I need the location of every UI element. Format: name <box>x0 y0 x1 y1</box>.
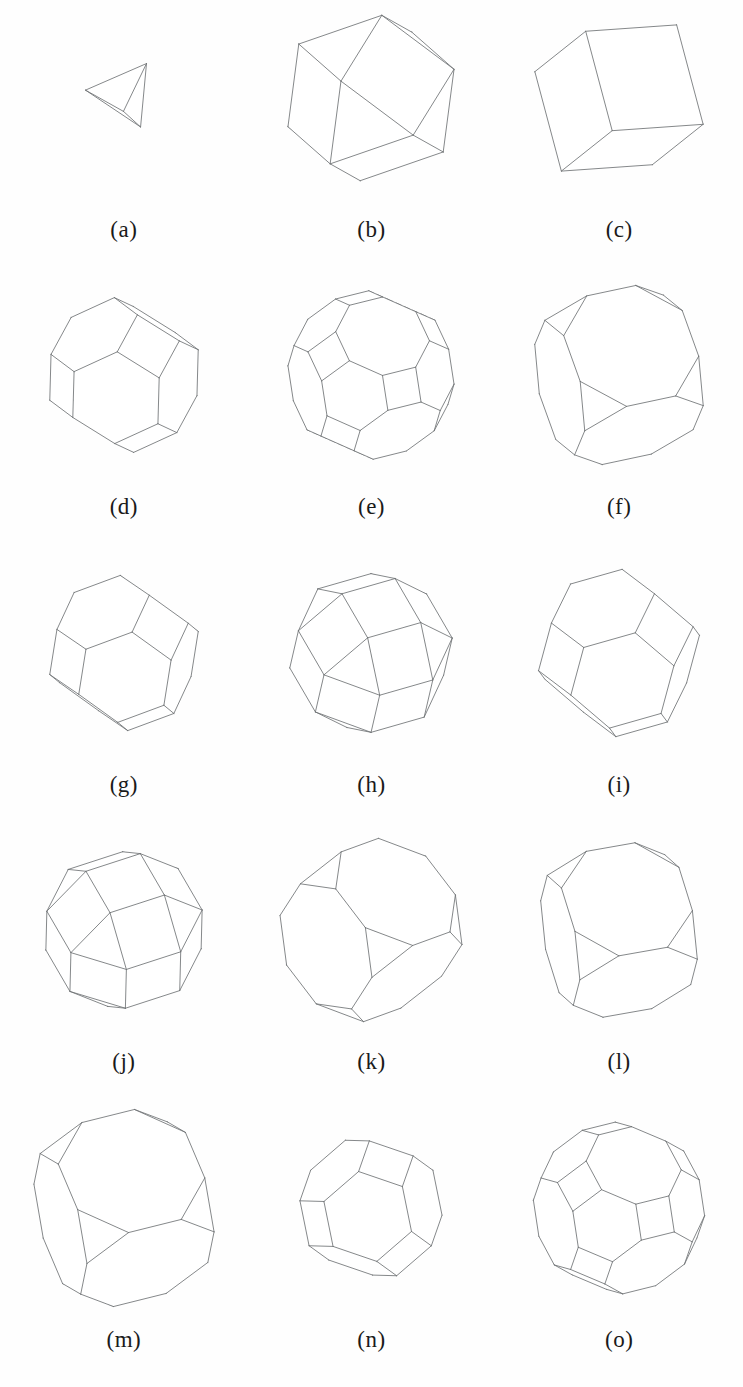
panel-label: (i) <box>608 773 631 796</box>
polyhedron-wireframe-tetrahedron <box>0 0 248 196</box>
panel-label: (f) <box>607 495 631 518</box>
panel-label: (n) <box>357 1328 385 1351</box>
shape-face-fill <box>539 569 700 736</box>
polyhedron-wireframe-cuboctahedron <box>248 0 496 196</box>
panel-label: (c) <box>606 218 633 241</box>
polyhedron-panel-e: (e) <box>248 277 496 554</box>
shape-face-fill <box>46 852 202 1008</box>
polyhedron-wireframe-truncated-octahedron <box>0 277 248 473</box>
polyhedron-wireframe-truncated-cuboctahedron-variant-1 <box>248 277 496 473</box>
polyhedron-panel-f: (f) <box>495 277 743 554</box>
panel-label: (d) <box>110 495 138 518</box>
panel-label: (j) <box>112 1050 135 1073</box>
polyhedron-panel-i: (i) <box>495 555 743 832</box>
panel-label: (a) <box>110 218 137 241</box>
polyhedron-panel-k: (k) <box>248 832 496 1109</box>
panel-label: (b) <box>357 218 385 241</box>
shape-face-fill <box>535 25 703 171</box>
polyhedron-panel-a: (a) <box>0 0 248 277</box>
shape-face-fill <box>535 286 703 465</box>
shape-face-fill <box>288 15 454 180</box>
polyhedron-wireframe-truncated-octahedron-tilted <box>495 555 743 751</box>
polyhedron-panel-b: (b) <box>248 0 496 277</box>
polyhedron-wireframe-truncated-cube-variant <box>495 277 743 473</box>
polyhedron-wireframe-truncated-cuboctahedron <box>495 1110 743 1306</box>
polyhedron-panel-j: (j) <box>0 832 248 1109</box>
polyhedron-panel-g: (g) <box>0 555 248 832</box>
polyhedron-wireframe-truncated-octahedron-small <box>248 1110 496 1306</box>
polyhedron-panel-c: (c) <box>495 0 743 277</box>
polyhedron-wireframe-truncated-cube-variant-2 <box>495 832 743 1028</box>
polyhedron-panel-m: (m) <box>0 1110 248 1387</box>
polyhedron-wireframe-truncated-cube-large <box>0 1110 248 1306</box>
shape-face-fill <box>50 575 198 730</box>
polyhedron-wireframe-rhombicuboctahedron <box>0 832 248 1028</box>
shape-face-fill <box>34 1109 214 1306</box>
polyhedron-wireframe-truncated-cube-elongated <box>248 832 496 1028</box>
polyhedron-panel-n: (n) <box>248 1110 496 1387</box>
panel-label: (l) <box>608 1050 631 1073</box>
polyhedra-figure-grid: (a)(b)(c)(d)(e)(f)(g)(h)(i)(j)(k)(l)(m)(… <box>0 0 743 1387</box>
panel-label: (m) <box>106 1328 141 1351</box>
panel-label: (g) <box>110 773 138 796</box>
polyhedron-wireframe-rhombicuboctahedron-variant <box>248 555 496 751</box>
panel-label: (o) <box>605 1328 633 1351</box>
shape-face-fill <box>541 843 698 1017</box>
panel-label: (k) <box>357 1050 385 1073</box>
polyhedron-panel-o: (o) <box>495 1110 743 1387</box>
shape-face-fill <box>50 298 198 453</box>
panel-label: (h) <box>357 773 385 796</box>
polyhedron-wireframe-truncated-octahedron-rounded <box>0 555 248 751</box>
polyhedron-wireframe-cube <box>495 0 743 196</box>
polyhedron-panel-h: (h) <box>248 555 496 832</box>
polyhedron-panel-l: (l) <box>495 832 743 1109</box>
panel-label: (e) <box>358 495 385 518</box>
polyhedron-panel-d: (d) <box>0 277 248 554</box>
